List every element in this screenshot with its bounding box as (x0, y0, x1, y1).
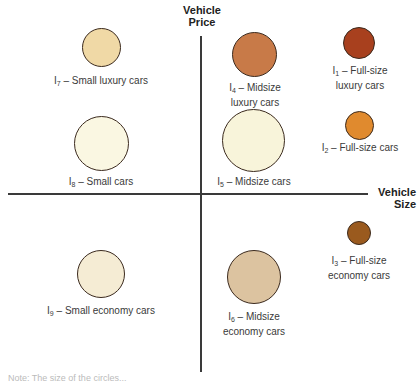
size-axis (8, 193, 368, 195)
circle-i1 (343, 27, 375, 59)
price-axis-label-line2: Price (182, 16, 222, 28)
price-axis-label-line1: Vehicle (182, 4, 222, 16)
label-i5: I5 – Midsize cars (200, 176, 308, 191)
label-i1: I1 – Full-size luxury cars (320, 65, 400, 92)
note-text: Note: The size of the circles... (8, 373, 126, 383)
circle-i5 (222, 109, 285, 172)
label-i8: I8 – Small cars (40, 176, 162, 191)
circle-i2 (345, 111, 374, 140)
circle-i7 (82, 28, 121, 67)
circle-i6 (227, 250, 281, 304)
label-i4: I4 – Midsize luxury cars (205, 82, 305, 109)
price-axis-label: Vehicle Price (182, 4, 222, 28)
circle-i3 (347, 221, 371, 245)
size-axis-label-line1: Vehicle (370, 186, 416, 198)
label-i2: I2 – Full-size cars (310, 142, 410, 157)
circle-i4 (232, 32, 277, 77)
circle-i8 (74, 116, 129, 171)
size-axis-label-line2: Size (370, 198, 416, 210)
label-i9: I9 – Small economy cars (30, 305, 172, 320)
label-i7: I7 – Small luxury cars (40, 75, 162, 90)
label-i3: I3 – Full-size economy cars (318, 255, 400, 282)
circle-i9 (77, 250, 125, 298)
price-axis (200, 36, 202, 372)
size-axis-label: Vehicle Size (370, 186, 416, 210)
label-i6: I6 – Midsize economy cars (204, 311, 304, 338)
